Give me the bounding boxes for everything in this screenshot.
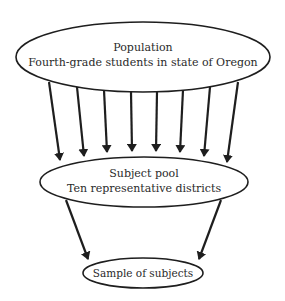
arrow [77, 87, 84, 156]
subject-pool-title: Subject pool [109, 167, 179, 180]
sample-title: Sample of subjects [93, 267, 193, 279]
pool-to-sample-arrows [66, 200, 221, 259]
subject-pool-node: Subject pool Ten representative district… [40, 157, 248, 207]
arrow [199, 200, 221, 259]
arrow [204, 87, 210, 156]
subject-pool-subtitle: Ten representative districts [67, 182, 222, 195]
arrow [104, 90, 107, 152]
population-subtitle: Fourth-grade students in state of Oregon [28, 56, 257, 69]
arrow [227, 82, 238, 162]
population-to-pool-arrows [49, 82, 238, 162]
sample-node: Sample of subjects [83, 258, 203, 288]
arrow [66, 200, 88, 259]
arrow [156, 92, 157, 151]
population-title: Population [113, 41, 172, 54]
arrow [131, 92, 132, 151]
sampling-diagram: Population Fourth-grade students in stat… [0, 0, 285, 301]
population-node: Population Fourth-grade students in stat… [16, 22, 270, 92]
arrow [49, 82, 60, 160]
arrow [180, 90, 183, 152]
